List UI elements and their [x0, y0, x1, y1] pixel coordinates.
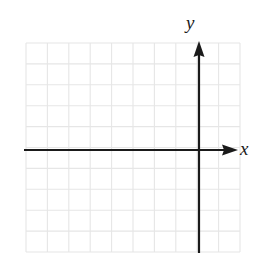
coordinate-plane-figure: [0, 0, 266, 261]
x-axis-label: x: [240, 139, 248, 158]
y-axis-label: y: [186, 13, 194, 32]
